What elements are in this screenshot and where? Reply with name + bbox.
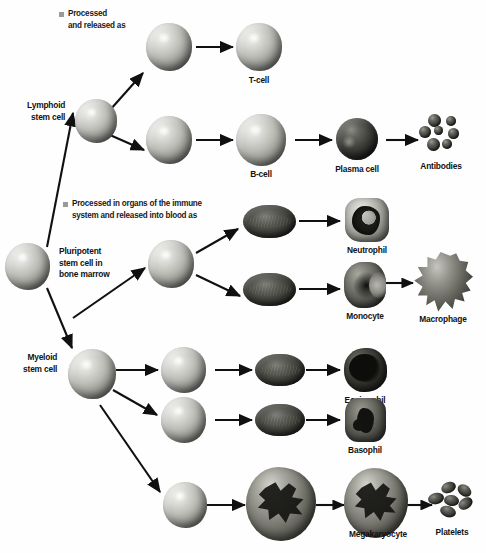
cell-megakaryocyte-early: [246, 467, 316, 541]
cell-eosinophil-progenitor: [161, 347, 206, 393]
label-b-cell: B-cell: [230, 168, 292, 180]
square-bullet-icon-lymphoid: [59, 12, 64, 17]
label-monocyte: Monocyte: [325, 310, 404, 322]
cell-platelets: [428, 482, 476, 522]
cell-monocyte-progenitor: [243, 273, 296, 306]
arrow-pluripotent-to-lymphoid: [47, 113, 73, 247]
note-myeloid: Processed in organs of the immune system…: [72, 198, 225, 221]
hematopoiesis-diagram: Processed and released as Processed in o…: [0, 0, 486, 553]
label-antibodies: Antibodies: [401, 160, 480, 172]
arrow-center-to-monocyte-progenitor: [196, 275, 240, 296]
label-plasma-cell: Plasma cell: [317, 163, 396, 175]
arrow-myeloid-to-megakaryoblast: [100, 405, 160, 492]
label-macrophage: Macrophage: [399, 313, 486, 325]
cell-basophil: [345, 398, 386, 442]
cell-monocyte: [344, 262, 386, 308]
cell-b-cell: [236, 114, 286, 166]
label-platelets: Platelets: [412, 526, 486, 538]
cell-antibodies: [418, 114, 466, 158]
label-myeloid-stem-cell: Myeloid stem cell: [8, 351, 57, 374]
cell-basophil-progenitor-2: [255, 404, 305, 436]
cell-neutrophil: [345, 198, 389, 242]
cell-myeloid-stem-cell: [68, 349, 116, 399]
arrow-center-to-neutrophil-progenitor: [196, 229, 238, 253]
arrow-lymphoid-to-b-progenitor: [110, 135, 144, 150]
label-basophil: Basophil: [325, 444, 404, 456]
cell-b-progenitor: [146, 116, 192, 164]
arrow-pluripotent-to-myeloid: [47, 288, 72, 348]
cell-neutrophil-progenitor: [243, 205, 296, 238]
arrow-lymphoid-to-t-progenitor: [110, 73, 143, 110]
cell-macrophage: [413, 252, 473, 314]
cell-lymphoid-stem-cell: [75, 99, 117, 143]
cell-basophil-progenitor: [161, 397, 206, 443]
cell-eosinophil-progenitor-2: [255, 354, 305, 386]
cell-megakaryoblast: [163, 482, 207, 528]
label-pluripotent-stem-cell: Pluripotent stem cell in bone marrow: [59, 245, 114, 280]
cell-t-progenitor: [146, 23, 192, 71]
cell-t-cell: [236, 23, 282, 71]
cell-pluripotent-stem-cell: [5, 243, 50, 290]
label-neutrophil: Neutrophil: [327, 244, 406, 256]
arrow-myeloid-to-basophil-progenitor: [113, 390, 157, 415]
label-t-cell: T-cell: [228, 74, 290, 86]
square-bullet-icon-myeloid: [63, 202, 68, 207]
cell-eosinophil: [344, 348, 387, 392]
cell-plasma-cell: [336, 118, 378, 160]
label-lymphoid-stem-cell: Lymphoid stem cell: [16, 99, 65, 122]
cell-common-progenitor: [148, 240, 194, 288]
